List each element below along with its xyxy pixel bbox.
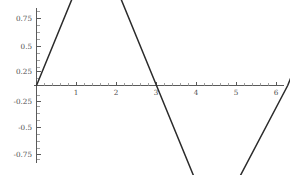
x-tick-label-4: 4 xyxy=(194,88,199,97)
y-tick-label-neg0_5: -0.5 xyxy=(18,123,32,132)
chart-canvas: 0.75 0.5 0.25 -0.25 -0.5 -0.75 1 2 3 4 5… xyxy=(0,0,290,175)
y-tick-label-0_25: 0.25 xyxy=(16,67,32,76)
x-axis-major-ticks xyxy=(77,82,277,86)
y-tick-label-0_75: 0.75 xyxy=(16,14,32,23)
x-tick-label-2: 2 xyxy=(114,88,119,97)
x-tick-label-6: 6 xyxy=(274,88,279,97)
y-tick-label-neg0_25: -0.25 xyxy=(14,97,33,106)
trapezoid-wave-chart: 0.75 0.5 0.25 -0.25 -0.5 -0.75 1 2 3 4 5… xyxy=(0,0,290,175)
x-tick-label-5: 5 xyxy=(234,88,239,97)
y-tick-label-0_5: 0.5 xyxy=(21,42,33,51)
y-tick-label-neg0_75: -0.75 xyxy=(14,150,33,159)
x-tick-label-1: 1 xyxy=(74,88,79,97)
